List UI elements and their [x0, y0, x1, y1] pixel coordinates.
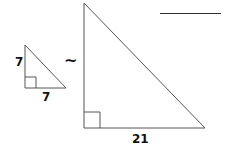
large-horizontal-leg-label: 21 [132, 132, 149, 146]
large-triangle: 21 [84, 3, 205, 146]
small-triangle-outline [25, 45, 66, 88]
small-horizontal-leg-label: 7 [42, 90, 50, 104]
small-right-angle-marker [25, 77, 36, 88]
large-right-angle-marker [84, 112, 100, 128]
large-triangle-outline [84, 3, 205, 128]
similar-triangles-diagram: 7 7 ~ 21 [0, 0, 232, 152]
small-triangle: 7 7 [15, 45, 66, 104]
similarity-symbol: ~ [64, 51, 77, 70]
small-vertical-leg-label: 7 [15, 55, 23, 69]
